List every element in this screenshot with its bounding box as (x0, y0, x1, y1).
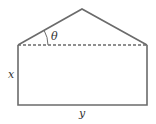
angle-arc (44, 30, 48, 45)
triangle-roof (18, 9, 147, 45)
window-diagram: θ x y (0, 0, 156, 124)
angle-label-theta: θ (51, 30, 58, 43)
width-label-y: y (78, 107, 86, 120)
height-label-x: x (8, 68, 15, 81)
rectangle-outline (18, 45, 147, 105)
